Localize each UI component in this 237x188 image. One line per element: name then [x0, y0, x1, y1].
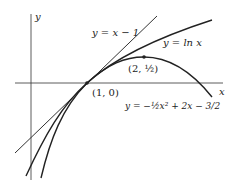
- y-axis-label: y: [35, 11, 41, 22]
- point-1-0-marker: [85, 81, 89, 85]
- diagram: y x y = x − 1 y = ln x y = −½x² + 2x − 3…: [0, 0, 237, 188]
- point-2-half-label: (2, ½): [128, 63, 158, 74]
- parabola-label: y = −½x² + 2x − 3/2: [125, 101, 220, 111]
- point-2-half-marker: [142, 55, 146, 59]
- tangent-line-label: y = x − 1: [92, 27, 139, 38]
- parabola-path: [26, 57, 212, 176]
- ln-curve-label: y = ln x: [163, 37, 202, 48]
- x-axis-label: x: [219, 86, 225, 97]
- point-1-0-label: (1, 0): [92, 87, 119, 98]
